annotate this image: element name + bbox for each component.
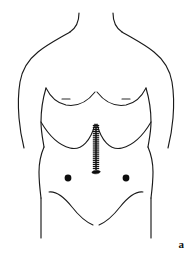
umbilicus-shape xyxy=(92,170,101,174)
right-inguinal-crease xyxy=(99,192,143,225)
right-costal-margin xyxy=(97,122,151,148)
right-port-site xyxy=(123,175,130,182)
left-port-site xyxy=(65,175,72,182)
umbilicus-mark xyxy=(92,170,101,174)
midline-incision xyxy=(93,124,99,170)
torso-illustration xyxy=(0,0,192,259)
left-torso-side-outline xyxy=(41,88,46,147)
port-site-group xyxy=(65,175,130,182)
figure-panel: a xyxy=(0,0,192,259)
left-shoulder-arm-outline xyxy=(18,32,70,148)
panel-label: a xyxy=(179,239,185,250)
left-inguinal-crease xyxy=(49,192,93,225)
neck-right-contour xyxy=(113,13,122,32)
left-waist-outline xyxy=(39,147,44,198)
left-pectoral-contour xyxy=(46,88,95,105)
right-shoulder-arm-outline xyxy=(122,32,174,148)
right-waist-outline xyxy=(148,147,153,198)
right-torso-side-outline xyxy=(146,88,151,147)
neck-left-contour xyxy=(70,13,79,32)
left-costal-margin xyxy=(41,122,95,148)
right-pectoral-contour xyxy=(97,88,146,105)
